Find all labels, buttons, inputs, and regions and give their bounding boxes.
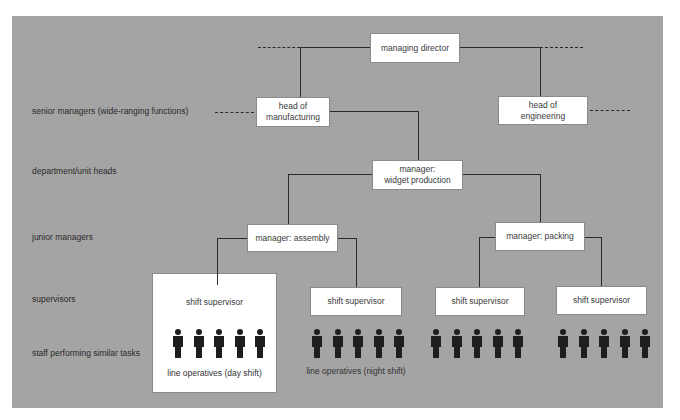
connector-line xyxy=(601,237,602,286)
node-manager-widget-production: manager: widget production xyxy=(372,160,463,190)
node-shift-supervisor-packing-1: shift supervisor xyxy=(435,287,525,316)
connector-line xyxy=(479,237,495,238)
person-icon xyxy=(193,329,205,363)
node-head-of-manufacturing: head of manufacturing xyxy=(256,97,330,127)
connector-line xyxy=(288,174,289,224)
person-icon xyxy=(471,329,483,363)
connector-line xyxy=(300,47,301,97)
node-label: manager: xyxy=(400,164,436,175)
row-label-junior-managers: junior managers xyxy=(32,232,93,242)
connector-line xyxy=(540,47,541,96)
person-icon xyxy=(352,329,364,363)
person-icon xyxy=(492,329,504,363)
row-label-department-heads: department/unit heads xyxy=(32,166,117,176)
person-icon xyxy=(598,329,610,363)
person-icon xyxy=(639,329,651,363)
node-label: manager: assembly xyxy=(255,233,329,244)
node-manager-packing: manager: packing xyxy=(495,222,585,251)
person-icon xyxy=(578,329,590,363)
caption-night-shift: line operatives (night shift) xyxy=(296,366,416,376)
node-label: manager: packing xyxy=(506,231,574,242)
person-icon xyxy=(557,329,569,363)
connector-line xyxy=(288,174,372,175)
person-icon xyxy=(213,329,225,363)
person-icon xyxy=(332,329,344,363)
node-label: shift supervisor xyxy=(573,295,630,306)
node-label: head of xyxy=(529,100,557,111)
node-label: shift supervisor xyxy=(327,296,384,307)
person-icon xyxy=(311,329,323,363)
person-icon xyxy=(234,329,246,363)
person-icon xyxy=(393,329,405,363)
connector-line xyxy=(479,237,480,287)
row-label-staff: staff performing similar tasks xyxy=(32,348,140,358)
node-managing-director: managing director xyxy=(370,33,460,63)
row-label-supervisors: supervisors xyxy=(32,294,75,304)
connector-line xyxy=(585,237,602,238)
node-label: engineering xyxy=(521,111,565,122)
node-label: head of xyxy=(279,101,307,112)
person-icon xyxy=(373,329,385,363)
connector-line xyxy=(463,174,541,175)
connector-line xyxy=(217,273,218,285)
connector-line xyxy=(460,47,540,48)
node-manager-assembly: manager: assembly xyxy=(247,224,338,252)
dashed-connector xyxy=(258,47,300,48)
node-label: managing director xyxy=(381,43,449,54)
node-label: shift supervisor xyxy=(451,296,508,307)
connector-line xyxy=(338,238,356,239)
node-label: shift supervisor xyxy=(186,297,243,308)
connector-line xyxy=(418,111,419,160)
connector-line xyxy=(217,238,247,239)
dashed-connector xyxy=(590,110,630,111)
person-icon xyxy=(451,329,463,363)
person-icon xyxy=(430,329,442,363)
node-shift-supervisor-night: shift supervisor xyxy=(310,287,402,316)
connector-line xyxy=(540,174,541,222)
person-icon xyxy=(254,329,266,363)
connector-line xyxy=(300,47,370,48)
caption-day-shift: line operatives (day shift) xyxy=(152,368,277,378)
connector-line xyxy=(356,238,357,287)
dashed-connector xyxy=(540,47,583,48)
node-head-of-engineering: head of engineering xyxy=(498,96,588,125)
connector-line xyxy=(330,111,418,112)
node-label: widget production xyxy=(384,175,451,186)
person-icon xyxy=(512,329,524,363)
person-icon xyxy=(172,329,184,363)
person-icon xyxy=(619,329,631,363)
row-label-senior-managers: senior managers (wide-ranging functions) xyxy=(32,106,188,116)
node-label: manufacturing xyxy=(266,112,320,123)
node-shift-supervisor-packing-2: shift supervisor xyxy=(556,286,647,315)
dashed-connector xyxy=(215,112,254,113)
